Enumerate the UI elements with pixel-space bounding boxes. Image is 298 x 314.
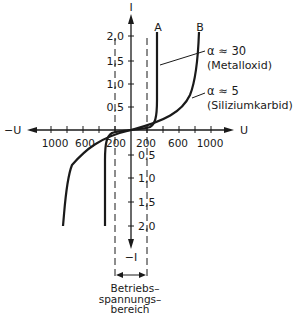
operating-range-left-arrowhead-icon: [116, 272, 123, 278]
curve-a-material: (Metalloxid): [207, 59, 272, 72]
operating-range-label-line3: bereich: [110, 303, 149, 314]
curve-b-alpha: α ≈ 5: [207, 84, 239, 98]
x-axis-left-arrow-icon: [27, 127, 37, 133]
y-tick-label: 1,5: [138, 196, 156, 209]
y-axis-down-arrow-icon: [128, 239, 134, 249]
y-tick-label: 1,0: [138, 172, 156, 185]
x-axis-right-arrow-icon: [224, 127, 234, 133]
y-axis-positive-label: I: [129, 1, 132, 14]
x-tick-label: 200: [136, 137, 156, 149]
y-tick-label: 0,5: [107, 101, 125, 114]
x-axis-negative-label: −U: [4, 124, 21, 137]
y-tick-label: 2,0: [138, 220, 156, 233]
x-tick-label: 1000: [197, 137, 224, 149]
x-tick-label: 200: [106, 137, 126, 149]
y-tick-label: 2,0: [107, 30, 125, 43]
y-axis-negative-label: −I: [125, 251, 137, 264]
leader-line-siliziumkarbid: [192, 93, 205, 98]
y-tick-label: 0,5: [138, 149, 156, 162]
curve-a-alpha: α ≈ 30: [207, 44, 246, 58]
curve-a-label: A: [154, 21, 162, 34]
varistor-characteristic-diagram: I −I U −U 2,0 1,5 1,0 0,5 0,5 1,0 1,5 2,…: [0, 0, 298, 314]
x-tick-label: 600: [168, 137, 188, 149]
operating-range-right-arrowhead-icon: [139, 272, 146, 278]
x-tick-label: 600: [75, 137, 95, 149]
curve-b-material: (Siliziumkarbid): [207, 99, 293, 112]
curve-b-label: B: [196, 21, 204, 34]
y-axis-up-arrow-icon: [128, 14, 134, 24]
x-axis-positive-label: U: [240, 124, 248, 137]
y-tick-label: 1,0: [107, 78, 125, 91]
x-tick-label: 1000: [42, 137, 69, 149]
y-tick-label: 1,5: [107, 55, 125, 68]
